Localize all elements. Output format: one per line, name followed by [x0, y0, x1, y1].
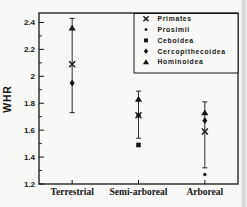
y-tick-label: 1.2 [24, 180, 36, 189]
legend-label: Hominoidea [158, 58, 204, 65]
y-tick-label: 2 [31, 72, 36, 81]
legend-label: Cercopithecoidea [158, 48, 226, 56]
marker-cercopithecoidea [70, 80, 75, 87]
y-tick-label: 2.4 [24, 18, 36, 27]
marker-cercopithecoidea [202, 117, 207, 124]
whr-scatter-plot: WHR 1.21.41.61.822.22.4TerrestrialSemi-a… [0, 0, 246, 207]
marker-hominoidea [201, 110, 208, 116]
marker-ceboidea [136, 143, 141, 148]
y-tick-label: 1.4 [24, 153, 36, 162]
marker-prosimii [203, 173, 206, 176]
legend-label: Prosimii [158, 26, 190, 33]
y-tick-label: 2.2 [24, 45, 36, 54]
legend-entry: Hominoidea [158, 58, 204, 65]
marker-hominoidea [135, 96, 142, 102]
legend-entry: Ceboidea [158, 37, 194, 44]
y-tick-label: 1.6 [24, 126, 36, 135]
legend-label: Ceboidea [158, 37, 194, 44]
marker-hominoidea [69, 25, 76, 31]
scan-edge [242, 0, 247, 207]
legend-entry: Prosimii [158, 26, 190, 33]
dot-marker-icon [145, 28, 148, 31]
legend-label: Primates [158, 15, 192, 22]
y-axis-title: WHR [1, 85, 13, 112]
square-marker-icon [144, 38, 148, 42]
x-category-label: Terrestrial [51, 187, 95, 197]
figure-root: WHR 1.21.41.61.822.22.4TerrestrialSemi-a… [0, 0, 246, 207]
y-tick-label: 1.8 [24, 99, 36, 108]
legend-entry: Cercopithecoidea [158, 48, 226, 56]
x-category-label: Semi-arboreal [110, 187, 168, 197]
legend-entry: Primates [158, 15, 192, 22]
x-category-label: Arboreal [186, 187, 223, 197]
